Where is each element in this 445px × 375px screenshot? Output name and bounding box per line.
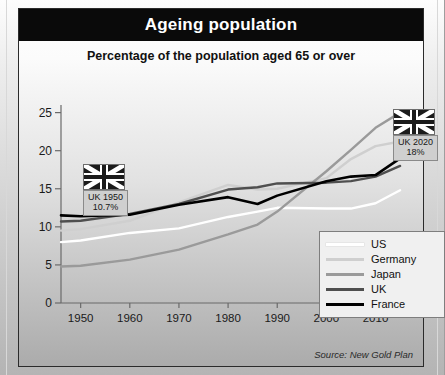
- legend-label-germany: Germany: [371, 254, 416, 265]
- svg-text:1950: 1950: [68, 312, 94, 324]
- svg-text:10: 10: [39, 220, 53, 234]
- legend-label-uk: UK: [371, 284, 386, 295]
- legend-item-us: US: [326, 237, 438, 252]
- callout-uk-1950: UK 1950 10.7%: [83, 164, 128, 216]
- callout-uk-2020-value: 18%: [398, 147, 433, 157]
- legend: US Germany Japan UK France: [319, 231, 445, 318]
- left-edge-rule: [6, 0, 7, 375]
- legend-swatch-us: [326, 243, 364, 246]
- svg-text:20: 20: [39, 144, 53, 158]
- callout-uk-1950-box: UK 1950 10.7%: [83, 190, 128, 216]
- chart-panel: Ageing population Percentage of the popu…: [18, 8, 424, 367]
- right-edge-rule: [437, 0, 438, 375]
- source-attribution: Source: New Gold Plan: [314, 349, 413, 360]
- callout-uk-2020-box: UK 2020 18%: [393, 135, 438, 161]
- callout-uk-2020-title: UK 2020: [398, 137, 433, 147]
- svg-text:1970: 1970: [166, 312, 192, 324]
- callout-uk-1950-value: 10.7%: [88, 202, 123, 212]
- legend-label-us: US: [371, 239, 386, 250]
- page-title: Ageing population: [145, 15, 298, 35]
- svg-text:1980: 1980: [215, 312, 241, 324]
- legend-swatch-uk: [326, 288, 364, 291]
- legend-label-france: France: [371, 299, 405, 310]
- svg-text:1960: 1960: [117, 312, 143, 324]
- legend-item-japan: Japan: [326, 267, 438, 282]
- legend-item-germany: Germany: [326, 252, 438, 267]
- svg-text:25: 25: [39, 106, 53, 120]
- callout-uk-2020: UK 2020 18%: [393, 109, 438, 161]
- callout-uk-1950-title: UK 1950: [88, 192, 123, 202]
- svg-text:15: 15: [39, 182, 53, 196]
- chart-subtitle: Percentage of the population aged 65 or …: [19, 49, 423, 63]
- legend-swatch-japan: [326, 273, 364, 276]
- svg-text:1990: 1990: [264, 312, 290, 324]
- union-jack-flag-icon: [83, 164, 125, 190]
- title-bar: Ageing population: [19, 9, 423, 41]
- svg-text:5: 5: [45, 258, 52, 272]
- legend-label-japan: Japan: [371, 269, 401, 280]
- legend-item-france: France: [326, 297, 438, 312]
- svg-text:0: 0: [45, 296, 52, 310]
- legend-item-uk: UK: [326, 282, 438, 297]
- legend-swatch-france: [326, 303, 364, 306]
- union-jack-flag-icon: [393, 109, 435, 135]
- legend-swatch-germany: [326, 258, 364, 261]
